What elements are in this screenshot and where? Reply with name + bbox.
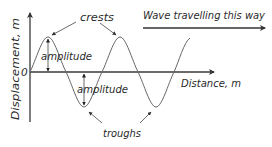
amplitude-upper-label: amplitude [41,50,92,62]
crests-annotation: crests [52,11,116,35]
crest-pointer-2-icon [100,23,116,35]
direction-label: Wave travelling this way [143,9,266,21]
wave-diagram: Wave travelling this way 0 Displacement,… [0,0,272,147]
crest-pointer-1-icon [52,22,76,35]
amplitude-upper: amplitude [41,39,93,71]
x-axis-label: Distance, m [181,77,241,89]
origin-label: 0 [21,66,28,78]
trough-pointer-1-icon [89,112,102,123]
amplitude-lower-label: amplitude [77,83,128,95]
axes: 0 Displacement, m Distance, m [9,13,241,122]
crests-label: crests [80,11,115,23]
troughs-annotation: troughs [89,112,151,139]
direction-indicator: Wave travelling this way [143,9,266,28]
amplitude-lower: amplitude [77,74,128,105]
trough-pointer-2-icon [140,112,151,123]
troughs-label: troughs [103,127,141,139]
y-axis-label: Displacement, m [9,18,21,120]
